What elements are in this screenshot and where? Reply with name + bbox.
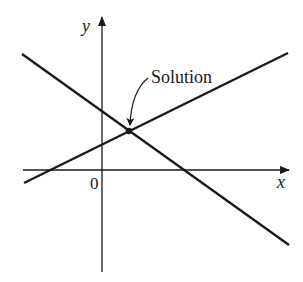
origin-label: 0 [90, 174, 99, 193]
solution-arrow-icon [130, 78, 148, 125]
system-of-equations-diagram: Solution y x 0 [0, 0, 303, 282]
solution-point [126, 128, 132, 134]
y-axis-label: y [80, 16, 90, 36]
x-axis-label: x [276, 172, 285, 192]
solution-label: Solution [151, 67, 212, 87]
